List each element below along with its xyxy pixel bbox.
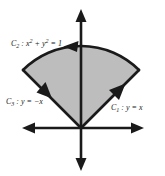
curve-c2-label-colon: : [19,39,26,48]
curve-c1-label-colon: : [119,103,126,112]
curve-c3-label: C3 : y = −x [6,98,43,107]
curve-c2-label-plus: + [33,39,42,48]
axis-arrow-left-icon [22,123,35,134]
curve-c1-label-body: y = x [126,103,143,112]
curve-c3-label-colon: : [14,97,21,106]
curve-c2-label-equals: = 1 [49,39,62,48]
curve-c1-label: C1 : y = x [111,104,143,113]
axis-arrow-up-icon [76,9,87,22]
curve-c3-label-body: y = −x [21,97,43,106]
axis-arrow-down-icon [76,158,87,171]
figure-container: C2 : x2 + y2 = 1 C3 : y = −x C1 : y = x [0,0,165,176]
sector-diagram-svg [0,0,165,176]
curve-c2-label: C2 : x2 + y2 = 1 [11,38,62,49]
axis-arrow-right-icon [131,123,144,134]
